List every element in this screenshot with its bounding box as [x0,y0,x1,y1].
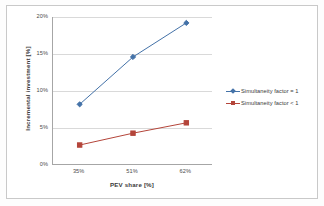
legend-diamond-icon [226,87,240,95]
data-point-marker [77,143,81,147]
y-axis-title-wrapper: Incremental investment [%] [16,0,17,1]
y-tick-label: 15% [14,51,48,57]
series-line [80,23,187,104]
x-tick-label: 35% [59,169,99,175]
x-axis-title: PEV share [%] [52,181,212,188]
legend-label: Simultaneity factor < 1 [241,100,299,106]
chart-figure: 0%5%10%15%20% Incremental investment [%]… [0,0,324,206]
data-point-marker [131,131,135,135]
y-axis-title: Incremental investment [%] [24,34,31,144]
legend-label: Simultaneity factor = 1 [241,88,299,94]
legend-marker-swatch [231,101,235,105]
data-point-marker [184,20,189,25]
x-axis-tick-labels: 35%51%62% [52,169,212,179]
y-tick-label: 10% [14,88,48,94]
legend-item[interactable]: Simultaneity factor < 1 [226,97,320,109]
plot-series-svg [53,17,213,165]
legend-marker-swatch [230,88,236,94]
legend-item[interactable]: Simultaneity factor = 1 [226,85,320,97]
x-tick-label: 62% [165,169,205,175]
plot-area [52,17,212,165]
y-tick-label: 20% [14,14,48,20]
y-tick-label: 0% [14,162,48,168]
y-tick-label: 5% [14,125,48,131]
legend-square-icon [226,99,240,107]
chart-legend: Simultaneity factor = 1Simultaneity fact… [226,85,320,109]
x-tick-label: 51% [112,169,152,175]
data-point-marker [184,121,188,125]
